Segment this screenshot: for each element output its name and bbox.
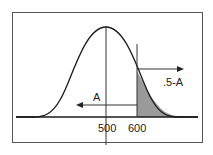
right-area-label: .5-A xyxy=(163,76,184,88)
normal-curve-diagram: .5-A A 500 600 xyxy=(0,0,213,155)
value-tick-label: 600 xyxy=(128,122,146,134)
left-area-label: A xyxy=(93,91,101,103)
mean-tick-label: 500 xyxy=(98,122,116,134)
